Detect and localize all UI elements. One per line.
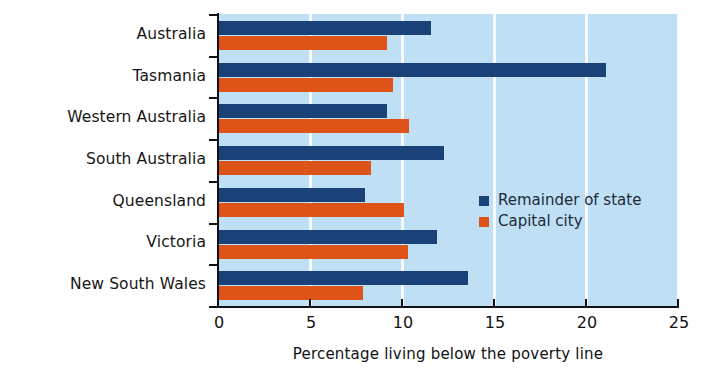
y-axis-tick bbox=[209, 223, 218, 225]
y-axis-category-labels: New South WalesVictoriaQueenslandSouth A… bbox=[30, 14, 212, 306]
bar bbox=[218, 286, 363, 300]
x-axis-tick-label: 25 bbox=[659, 313, 699, 332]
x-axis-tick bbox=[401, 299, 403, 308]
bar bbox=[218, 161, 371, 175]
x-axis-tick-label: 20 bbox=[567, 313, 607, 332]
legend-label: Capital city bbox=[498, 214, 583, 229]
y-axis-tick bbox=[209, 97, 218, 99]
x-axis-tick bbox=[585, 299, 587, 308]
x-axis-tick-label: 10 bbox=[383, 313, 423, 332]
bar bbox=[218, 245, 408, 259]
bar bbox=[218, 78, 393, 92]
x-axis-tick bbox=[309, 299, 311, 308]
legend-item[interactable]: Capital city bbox=[479, 211, 641, 232]
bar bbox=[218, 63, 606, 77]
bar bbox=[218, 146, 444, 160]
x-axis-tick bbox=[493, 299, 495, 308]
bar bbox=[218, 203, 404, 217]
x-axis-tick-label: 5 bbox=[291, 313, 331, 332]
gridline bbox=[493, 14, 496, 306]
bar bbox=[218, 36, 387, 50]
x-axis-tick-label: 0 bbox=[199, 313, 239, 332]
bar bbox=[218, 188, 365, 202]
gridline bbox=[677, 14, 680, 306]
y-axis-category-label: Western Australia bbox=[67, 110, 206, 126]
legend-label: Remainder of state bbox=[498, 193, 641, 208]
x-axis-title: Percentage living below the poverty line bbox=[218, 345, 678, 363]
chart-legend: Remainder of stateCapital city bbox=[479, 190, 641, 232]
legend-item[interactable]: Remainder of state bbox=[479, 190, 641, 211]
bar bbox=[218, 104, 387, 118]
y-axis-category-label: Queensland bbox=[113, 194, 206, 210]
y-axis-category-label: Australia bbox=[137, 27, 206, 43]
plot-area bbox=[218, 14, 678, 306]
legend-swatch-icon bbox=[479, 217, 489, 227]
y-axis-category-label: Victoria bbox=[146, 235, 206, 251]
x-axis-line bbox=[217, 306, 679, 308]
bar bbox=[218, 230, 437, 244]
y-axis-tick bbox=[209, 139, 218, 141]
y-axis-category-label: South Australia bbox=[86, 152, 206, 168]
x-axis-tick bbox=[677, 299, 679, 308]
y-axis-tick bbox=[209, 14, 218, 16]
bar-chart: State New South WalesVictoriaQueenslandS… bbox=[0, 0, 724, 378]
gridline bbox=[585, 14, 588, 306]
bar bbox=[218, 119, 409, 133]
x-axis-tick bbox=[217, 299, 219, 308]
y-axis-tick bbox=[209, 181, 218, 183]
legend-swatch-icon bbox=[479, 196, 489, 206]
y-axis-tick bbox=[209, 264, 218, 266]
y-axis-category-label: Tasmania bbox=[132, 69, 206, 85]
y-axis-category-label: New South Wales bbox=[70, 277, 206, 293]
bar bbox=[218, 21, 431, 35]
x-axis-tick-label: 15 bbox=[475, 313, 515, 332]
bar bbox=[218, 271, 468, 285]
y-axis-tick bbox=[209, 56, 218, 58]
